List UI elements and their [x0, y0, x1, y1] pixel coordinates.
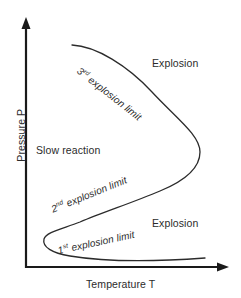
x-axis-label: Temperature T	[86, 279, 155, 290]
region-label-explosion-top: Explosion	[152, 58, 198, 69]
y-axis-arrowhead	[22, 17, 31, 29]
region-label-explosion-bottom: Explosion	[152, 218, 198, 229]
x-axis-arrowhead	[217, 263, 229, 272]
region-label-slow-reaction: Slow reaction	[36, 145, 100, 156]
explosion-limits-figure: Explosion Explosion Slow reaction 3rd ex…	[0, 0, 241, 298]
y-axis-label: Pressure P	[16, 100, 27, 170]
